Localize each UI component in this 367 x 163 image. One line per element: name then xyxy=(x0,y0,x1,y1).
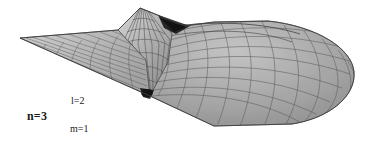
label-principal-quantum-number: n=3 xyxy=(27,110,47,122)
surface-plot-canvas xyxy=(0,0,367,163)
label-azimuthal-quantum-number: l=2 xyxy=(71,96,84,106)
label-magnetic-quantum-number: m=1 xyxy=(70,124,88,134)
right-dome-surface xyxy=(150,17,356,126)
orbital-surface-figure: n=3 l=2 m=1 xyxy=(0,0,367,163)
